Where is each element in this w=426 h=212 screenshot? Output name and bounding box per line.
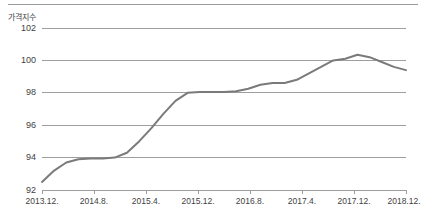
x-tick-1 xyxy=(94,190,95,194)
x-tick-label-1: 2014.8. xyxy=(80,196,108,206)
x-tick-label-3: 2015.12. xyxy=(181,196,214,206)
x-tick-label-7: 2018.12. xyxy=(387,196,420,206)
y-tick-label-96: 96 xyxy=(10,120,36,130)
x-tick-5 xyxy=(302,190,303,194)
x-tick-4 xyxy=(250,190,251,194)
figure-top-rule xyxy=(8,4,418,5)
plot-area xyxy=(42,28,406,190)
y-tick-label-102: 102 xyxy=(10,23,36,33)
y-tick-label-92: 92 xyxy=(10,185,36,195)
x-tick-label-5: 2017.4. xyxy=(288,196,316,206)
x-axis-line xyxy=(42,190,406,191)
x-tick-7 xyxy=(406,190,407,194)
series-line-price-index xyxy=(42,28,406,190)
x-tick-3 xyxy=(198,190,199,194)
y-axis-title: 가격지수 xyxy=(8,11,36,22)
y-tick-label-100: 100 xyxy=(10,55,36,65)
x-tick-6 xyxy=(354,190,355,194)
x-tick-label-2: 2015.4. xyxy=(132,196,160,206)
x-tick-label-6: 2017.12. xyxy=(337,196,370,206)
x-tick-label-0: 2013.12. xyxy=(25,196,58,206)
y-tick-label-98: 98 xyxy=(10,87,36,97)
price-index-line-chart: 가격지수 102 100 98 96 94 92 2013.12. 2014.8… xyxy=(0,0,426,212)
y-tick-label-94: 94 xyxy=(10,152,36,162)
x-tick-2 xyxy=(146,190,147,194)
x-tick-0 xyxy=(42,190,43,194)
x-tick-label-4: 2016.8. xyxy=(236,196,264,206)
